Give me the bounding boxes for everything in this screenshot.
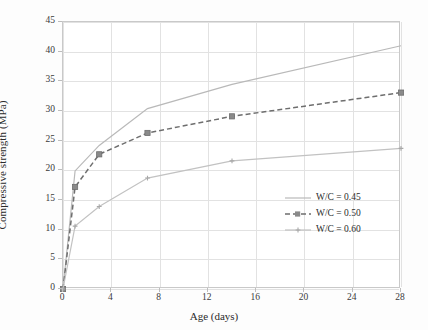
y-tick-mark	[58, 199, 62, 200]
y-tick-label: 10	[46, 223, 56, 233]
x-tick-mark	[400, 288, 401, 292]
x-tick-label: 20	[283, 292, 323, 302]
x-tick-label: 4	[90, 292, 130, 302]
legend-label-wc-045: W/C = 0.45	[316, 193, 361, 203]
series-marker-1	[72, 184, 77, 189]
y-tick-label: 35	[46, 74, 56, 84]
chart-legend: W/C = 0.45 W/C = 0.50 W/C = 0.60	[285, 190, 361, 238]
y-tick-mark	[58, 80, 62, 81]
y-tick-mark	[58, 258, 62, 259]
series-marker-2	[399, 146, 404, 151]
gridline-vertical	[401, 22, 402, 287]
series-marker-2	[230, 158, 235, 163]
legend-item-wc-045[interactable]: W/C = 0.45	[285, 190, 361, 206]
y-tick-label: 0	[50, 282, 55, 292]
y-tick-mark	[58, 140, 62, 141]
x-tick-mark	[352, 288, 353, 292]
x-tick-label: 24	[332, 292, 372, 302]
series-marker-1	[398, 90, 403, 95]
y-tick-label: 15	[46, 193, 56, 203]
y-tick-label: 30	[46, 104, 56, 114]
y-tick-mark	[58, 51, 62, 52]
legend-label-wc-060: W/C = 0.60	[316, 225, 361, 235]
plot-area: W/C = 0.45 W/C = 0.50 W/C = 0.60	[62, 21, 400, 288]
x-tick-label: 0	[42, 292, 82, 302]
legend-swatch-wc-060	[285, 225, 311, 235]
gridline-horizontal	[63, 289, 399, 290]
y-tick-label: 20	[46, 163, 56, 173]
legend-swatch-wc-050	[285, 209, 311, 219]
y-axis-title: Compressive strength (MPa)	[0, 0, 8, 330]
x-tick-label: 12	[187, 292, 227, 302]
y-tick-label: 5	[50, 252, 55, 262]
legend-item-wc-050[interactable]: W/C = 0.50	[285, 206, 361, 222]
x-tick-label: 8	[139, 292, 179, 302]
legend-label-wc-050: W/C = 0.50	[316, 209, 361, 219]
x-tick-label: 16	[235, 292, 275, 302]
y-tick-mark	[58, 229, 62, 230]
y-tick-label: 25	[46, 134, 56, 144]
x-tick-mark	[207, 288, 208, 292]
y-tick-mark	[58, 110, 62, 111]
x-tick-mark	[159, 288, 160, 292]
x-tick-mark	[303, 288, 304, 292]
series-marker-1	[145, 130, 150, 135]
legend-item-wc-060[interactable]: W/C = 0.60	[285, 222, 361, 238]
x-tick-label: 28	[380, 292, 420, 302]
chart-figure: W/C = 0.45 W/C = 0.50 W/C = 0.60 0510152…	[0, 0, 428, 330]
series-marker-1	[229, 114, 234, 119]
series-line-0	[63, 46, 401, 289]
series-layer	[63, 22, 401, 289]
x-axis-title: Age (days)	[0, 310, 428, 322]
y-tick-label: 40	[46, 45, 56, 55]
x-tick-mark	[110, 288, 111, 292]
legend-swatch-wc-045	[285, 193, 311, 203]
x-tick-mark	[62, 288, 63, 292]
y-tick-mark	[58, 21, 62, 22]
series-marker-1	[97, 152, 102, 157]
y-tick-label: 45	[46, 15, 56, 25]
x-tick-mark	[255, 288, 256, 292]
y-tick-mark	[58, 169, 62, 170]
